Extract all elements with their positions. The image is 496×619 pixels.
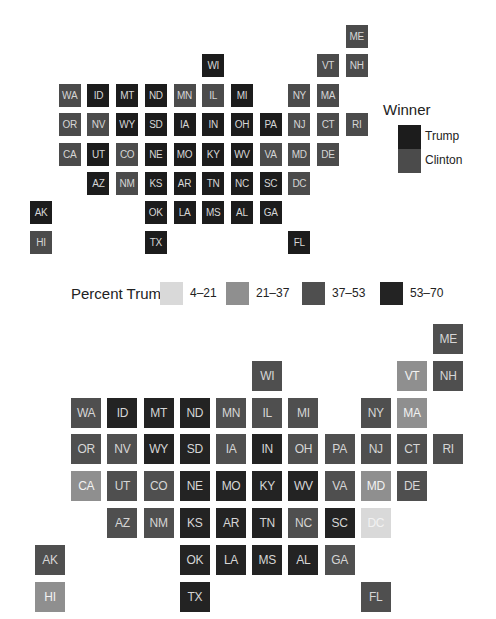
winner-legend-swatch-clinton — [398, 149, 421, 173]
state-tile-ma: MA — [317, 84, 339, 107]
state-tile-ri: RI — [346, 113, 368, 136]
state-tile-nh: NH — [346, 54, 368, 77]
state-tile-ct: CT — [317, 113, 339, 136]
state-tile-pa: PA — [325, 434, 355, 464]
state-tile-ma: MA — [397, 398, 427, 428]
state-tile-ne: NE — [145, 143, 167, 166]
state-tile-ga: GA — [260, 201, 282, 224]
state-tile-mo: MO — [174, 143, 196, 166]
state-tile-de: DE — [397, 471, 427, 501]
percent-legend-label-53-70: 53–70 — [410, 286, 443, 300]
winner-legend-swatch-trump — [398, 125, 421, 149]
state-tile-or: OR — [71, 434, 101, 464]
state-tile-wv: WV — [231, 143, 253, 166]
state-tile-co: CO — [144, 471, 174, 501]
state-tile-id: ID — [87, 84, 109, 107]
percent-legend-title: Percent Trump — [71, 285, 169, 302]
state-tile-vt: VT — [397, 361, 427, 391]
state-tile-wy: WY — [116, 113, 138, 136]
state-tile-ks: KS — [180, 508, 210, 538]
state-tile-oh: OH — [231, 113, 253, 136]
state-tile-ak: AK — [35, 545, 65, 575]
percent-legend-label-21-37: 21–37 — [256, 286, 289, 300]
state-tile-tn: TN — [252, 508, 282, 538]
state-tile-il: IL — [252, 398, 282, 428]
state-tile-sd: SD — [145, 113, 167, 136]
state-tile-ak: AK — [30, 201, 52, 224]
state-tile-al: AL — [288, 545, 318, 575]
state-tile-tx: TX — [180, 582, 210, 612]
state-tile-nv: NV — [87, 113, 109, 136]
state-tile-nj: NJ — [361, 434, 391, 464]
state-tile-nd: ND — [145, 84, 167, 107]
state-tile-md: MD — [288, 143, 310, 166]
state-tile-ms: MS — [202, 201, 224, 224]
state-tile-va: VA — [260, 143, 282, 166]
state-tile-ky: KY — [252, 471, 282, 501]
state-tile-wi: WI — [252, 361, 282, 391]
state-tile-me: ME — [433, 324, 463, 354]
state-tile-tx: TX — [145, 231, 167, 254]
state-tile-ar: AR — [174, 172, 196, 195]
state-tile-nv: NV — [107, 434, 137, 464]
state-tile-nm: NM — [116, 172, 138, 195]
winner-legend-title: Winner — [383, 101, 431, 118]
state-tile-la: LA — [174, 201, 196, 224]
state-tile-oh: OH — [288, 434, 318, 464]
state-tile-ct: CT — [397, 434, 427, 464]
state-tile-wv: WV — [288, 471, 318, 501]
state-tile-fl: FL — [288, 231, 310, 254]
state-tile-mi: MI — [231, 84, 253, 107]
state-tile-hi: HI — [35, 582, 65, 612]
state-tile-in: IN — [202, 113, 224, 136]
state-tile-pa: PA — [260, 113, 282, 136]
state-tile-ia: IA — [216, 434, 246, 464]
state-tile-ut: UT — [87, 143, 109, 166]
percent-legend-label-37-53: 37–53 — [332, 286, 365, 300]
state-tile-nm: NM — [144, 508, 174, 538]
state-tile-nc: NC — [231, 172, 253, 195]
state-tile-id: ID — [107, 398, 137, 428]
state-tile-vt: VT — [317, 54, 339, 77]
state-tile-ks: KS — [145, 172, 167, 195]
state-tile-ny: NY — [361, 398, 391, 428]
percent-legend-swatch-21-37 — [226, 282, 249, 305]
winner-legend-label-clinton: Clinton — [425, 153, 462, 167]
state-tile-fl: FL — [361, 582, 391, 612]
state-tile-ar: AR — [216, 508, 246, 538]
state-tile-mo: MO — [216, 471, 246, 501]
state-tile-al: AL — [231, 201, 253, 224]
state-tile-az: AZ — [107, 508, 137, 538]
state-tile-il: IL — [202, 84, 224, 107]
state-tile-nh: NH — [433, 361, 463, 391]
state-tile-in: IN — [252, 434, 282, 464]
state-tile-mn: MN — [216, 398, 246, 428]
state-tile-me: ME — [346, 25, 368, 48]
state-tile-ny: NY — [288, 84, 310, 107]
state-tile-de: DE — [317, 143, 339, 166]
state-tile-ga: GA — [325, 545, 355, 575]
state-tile-ca: CA — [59, 143, 81, 166]
state-tile-ca: CA — [71, 471, 101, 501]
state-tile-ia: IA — [174, 113, 196, 136]
percent-legend-label-4-21: 4–21 — [190, 286, 217, 300]
winner-legend-label-trump: Trump — [425, 129, 459, 143]
state-tile-dc: DC — [361, 508, 391, 538]
state-tile-tn: TN — [202, 172, 224, 195]
state-tile-ri: RI — [433, 434, 463, 464]
percent-legend-swatch-53-70 — [380, 282, 403, 305]
state-tile-ms: MS — [252, 545, 282, 575]
state-tile-nc: NC — [288, 508, 318, 538]
state-tile-az: AZ — [87, 172, 109, 195]
percent-legend-swatch-37-53 — [302, 282, 325, 305]
percent-legend-swatch-4-21 — [160, 282, 183, 305]
state-tile-ut: UT — [107, 471, 137, 501]
state-tile-co: CO — [116, 143, 138, 166]
state-tile-mn: MN — [174, 84, 196, 107]
state-tile-mt: MT — [116, 84, 138, 107]
state-tile-ky: KY — [202, 143, 224, 166]
state-tile-va: VA — [325, 471, 355, 501]
state-tile-sc: SC — [260, 172, 282, 195]
state-tile-nj: NJ — [288, 113, 310, 136]
state-tile-wi: WI — [202, 54, 224, 77]
